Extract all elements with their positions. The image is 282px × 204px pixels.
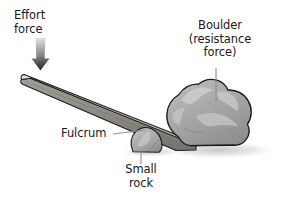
label-effort-force: Effort force: [14, 9, 45, 36]
label-boulder-resistance-force: Boulder (resistance force): [176, 19, 264, 60]
lever-diagram: Effort force Boulder (resistance force) …: [0, 0, 282, 204]
boulder-rock: [167, 79, 251, 145]
label-fulcrum: Fulcrum: [61, 127, 106, 141]
label-small-rock: Small rock: [110, 163, 172, 190]
effort-force-arrow-icon: [32, 38, 50, 71]
